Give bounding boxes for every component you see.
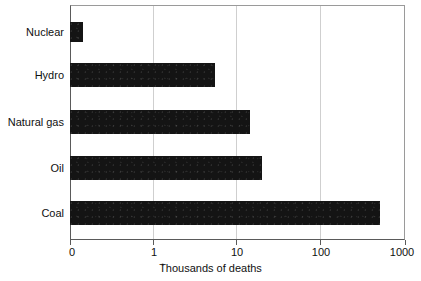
bar-chart: Nuclear Hydro Natural gas Oil Coal 0 1 1… [0,0,421,281]
bar-oil [70,156,262,180]
tick-label-1: 1 [151,246,157,258]
tick-mark-10 [236,240,237,245]
bar-coal [70,201,380,225]
tick-label-100: 100 [312,246,330,258]
tick-label-0: 0 [69,246,75,258]
bars-layer [70,5,405,240]
category-label-nuclear: Nuclear [0,26,64,38]
category-label-oil: Oil [0,162,64,174]
category-label-coal: Coal [0,207,64,219]
bar-hydro [70,63,215,87]
tick-label-10: 10 [231,246,243,258]
tick-mark-100 [320,240,321,245]
bar-nuclear [70,22,83,42]
tick-label-1000: 1000 [390,246,414,258]
bar-natural-gas [70,110,250,134]
category-label-hydro: Hydro [0,69,64,81]
x-axis-title: Thousands of deaths [0,262,421,275]
tick-mark-0 [70,240,71,245]
tick-mark-1 [153,240,154,245]
tick-mark-1000 [405,240,406,245]
category-label-natural-gas: Natural gas [0,116,64,128]
